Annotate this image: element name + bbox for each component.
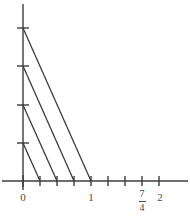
segment-1: [23, 143, 40, 181]
diagonal-segments: [23, 28, 91, 181]
x-tick-label-2: 2: [152, 192, 168, 203]
segment-4: [23, 28, 91, 181]
x-tick-label-1: 1: [81, 192, 101, 203]
fraction-numerator: 7: [134, 189, 150, 200]
fraction-denominator: 4: [134, 203, 150, 214]
figure-container: 0 1 7 4 2: [0, 0, 190, 217]
plot-svg: [0, 0, 190, 217]
x-tick-label-0: 0: [13, 192, 33, 203]
x-tick-label-seven-fourths: 7 4: [134, 189, 150, 213]
